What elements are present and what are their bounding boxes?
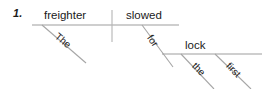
sentence-diagram-exercise: 1. freighter slowed lock The for the fir… xyxy=(0,0,262,89)
exercise-number: 1. xyxy=(13,8,23,19)
slant-line-preposition-for xyxy=(142,25,173,67)
word-subject-freighter: freighter xyxy=(44,10,86,22)
word-object-lock: lock xyxy=(185,40,205,52)
word-verb-slowed: slowed xyxy=(126,10,162,22)
